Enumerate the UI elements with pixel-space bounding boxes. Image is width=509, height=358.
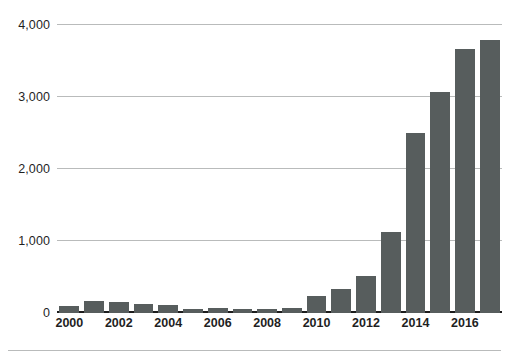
plot-area xyxy=(57,25,502,313)
x-tick-label-2000: 2000 xyxy=(55,316,83,330)
y-tick-label-3000: 3,000 xyxy=(18,90,50,104)
bar-2001 xyxy=(84,301,104,313)
bar-2014 xyxy=(406,133,426,313)
y-tick-label-2000: 2,000 xyxy=(18,162,50,176)
bar-2000 xyxy=(59,306,79,313)
y-tick-label-0: 0 xyxy=(43,306,50,320)
x-tick-label-2012: 2012 xyxy=(352,316,380,330)
bar-2002 xyxy=(109,302,129,313)
bar-2003 xyxy=(134,304,154,313)
bar-2008 xyxy=(257,309,277,313)
x-tick-label-2006: 2006 xyxy=(204,316,232,330)
bar-series xyxy=(57,25,502,313)
x-tick-label-2004: 2004 xyxy=(154,316,182,330)
bar-2015 xyxy=(430,92,450,313)
bar-2007 xyxy=(233,309,253,313)
footer-divider xyxy=(8,350,501,351)
bar-2006 xyxy=(208,308,228,313)
x-axis-tick-labels: 200020022004200620082010201220142016 xyxy=(57,316,502,336)
x-tick-label-2008: 2008 xyxy=(253,316,281,330)
bar-2016 xyxy=(455,49,475,313)
y-tick-label-1000: 1,000 xyxy=(18,234,50,248)
bar-2010 xyxy=(307,296,327,313)
bar-2017 xyxy=(480,40,500,313)
bar-2011 xyxy=(331,289,351,313)
bar-2009 xyxy=(282,308,302,313)
bar-2013 xyxy=(381,232,401,313)
bar-chart-figure: 01,0002,0003,0004,000 200020022004200620… xyxy=(0,0,509,358)
y-axis-tick-labels: 01,0002,0003,0004,000 xyxy=(0,25,50,313)
y-tick-label-4000: 4,000 xyxy=(18,18,50,32)
bar-2012 xyxy=(356,276,376,313)
bar-2004 xyxy=(158,305,178,313)
bar-2005 xyxy=(183,309,203,313)
x-tick-label-2016: 2016 xyxy=(451,316,479,330)
x-tick-label-2014: 2014 xyxy=(402,316,430,330)
x-tick-label-2002: 2002 xyxy=(105,316,133,330)
x-tick-label-2010: 2010 xyxy=(303,316,331,330)
